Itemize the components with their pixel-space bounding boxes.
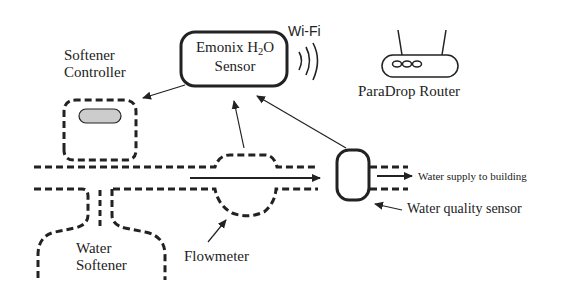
sensor-title-suffix: O [263,39,274,55]
sensor-line2: Sensor [215,58,256,74]
water-softener-line2: Softener [76,257,127,273]
wifi-waves-icon [299,43,318,80]
arrow-flowmeter-label [208,220,226,242]
emonix-sensor-label: Emonix H2O Sensor [186,39,284,74]
sensor-title-prefix: Emonix H [196,39,258,55]
router-icon [382,30,458,77]
water-softener-line1: Water [76,240,111,256]
water-quality-sensor-body [337,150,369,200]
diagram-canvas: Emonix H2O Sensor Wi-Fi ParaDrop Router … [0,0,583,294]
softener-controller-line1: Softener [64,47,115,63]
arrow-quality-label [375,204,402,210]
softener-controller-line2: Controller [64,64,126,80]
softener-controller-label: Softener Controller [64,47,126,80]
arrow-quality-sensor-to-sensor [257,96,346,148]
softener-controller-device [64,100,136,160]
water-softener-label: Water Softener [76,240,127,273]
water-quality-label: Water quality sensor [407,201,522,216]
arrow-sensor-to-controller [143,85,185,98]
arrow-flowmeter-to-sensor [234,101,244,148]
flowmeter-label: Flowmeter [184,248,249,265]
wifi-label: Wi-Fi [288,24,321,39]
router-label: ParaDrop Router [358,83,460,100]
water-supply-label: Water supply to building [418,170,527,182]
